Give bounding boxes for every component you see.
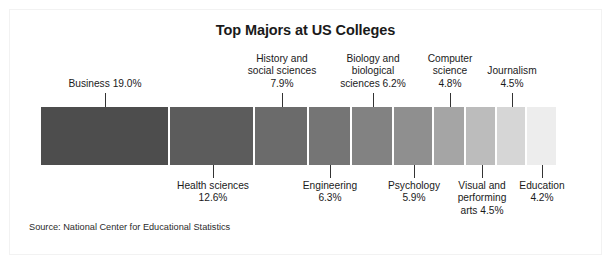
callout-tick [282, 93, 283, 107]
callout-tick [542, 165, 543, 178]
bar-segment [170, 107, 255, 165]
bar-segment [527, 107, 555, 165]
data-label: Education 4.2% [483, 180, 601, 205]
callout-tick [330, 165, 331, 178]
bar-segment [434, 107, 467, 165]
bar-segment [41, 107, 170, 165]
bar-segment [394, 107, 434, 165]
bar-segment [466, 107, 497, 165]
source-note: Source: National Center for Educational … [29, 222, 230, 232]
callout-tick [373, 93, 374, 107]
data-label: Business 19.0% [46, 78, 164, 90]
callout-tick [105, 93, 106, 107]
bar-segment [497, 107, 528, 165]
data-label: Health sciences 12.6% [154, 180, 272, 205]
chart-figure: Top Majors at US Colleges Business 19.0%… [0, 0, 611, 264]
bar-segment [309, 107, 352, 165]
callout-tick [450, 93, 451, 107]
bar-segment [255, 107, 309, 165]
callout-tick [512, 93, 513, 107]
callout-tick [414, 165, 415, 178]
callout-tick [213, 165, 214, 178]
stacked-bar [41, 107, 556, 165]
callout-tick [482, 165, 483, 178]
data-label: Journalism 4.5% [453, 65, 571, 90]
bar-segment [352, 107, 394, 165]
page-title: Top Majors at US Colleges [0, 22, 611, 38]
